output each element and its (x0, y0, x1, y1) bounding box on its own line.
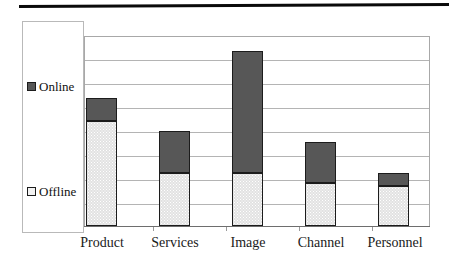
legend-swatch-online-icon (27, 82, 36, 91)
legend-label-online: Online (39, 80, 74, 93)
legend-swatch-offline-icon (27, 187, 36, 196)
chart-legend: Online Offline (22, 21, 84, 233)
bar-group-services[interactable] (159, 36, 190, 226)
x-axis-tick (226, 227, 227, 231)
bar-segment-offline[interactable] (86, 121, 117, 226)
bar-group-personnel[interactable] (378, 36, 409, 226)
legend-entry-offline[interactable]: Offline (27, 185, 76, 198)
bar-segment-offline[interactable] (232, 173, 263, 226)
x-axis-label-services: Services (141, 234, 209, 252)
bar-segment-offline[interactable] (378, 186, 409, 226)
bar-segment-online[interactable] (159, 131, 190, 173)
x-axis-label-image: Image (214, 234, 282, 252)
bar-segment-online[interactable] (86, 98, 117, 121)
stacked-bar-chart-figure: Product Services Image Channel Personnel… (0, 0, 449, 270)
bar-group-channel[interactable] (305, 36, 336, 226)
bar-segment-online[interactable] (378, 173, 409, 186)
top-horizontal-rule (19, 3, 449, 8)
x-axis-tick (299, 227, 300, 231)
x-axis-label-channel: Channel (287, 234, 355, 252)
plot-area (84, 36, 430, 227)
x-axis-tick (153, 227, 154, 231)
bar-segment-offline[interactable] (305, 183, 336, 226)
bar-segment-online[interactable] (232, 51, 263, 173)
bar-group-product[interactable] (86, 36, 117, 226)
x-axis-tick (372, 227, 373, 231)
legend-entry-online[interactable]: Online (27, 80, 74, 93)
bar-segment-online[interactable] (305, 142, 336, 183)
x-axis-label-product: Product (68, 234, 136, 252)
bar-group-image[interactable] (232, 36, 263, 226)
legend-label-offline: Offline (39, 185, 76, 198)
x-axis-label-personnel: Personnel (357, 234, 433, 252)
bar-segment-offline[interactable] (159, 173, 190, 226)
x-axis-line (84, 226, 430, 227)
